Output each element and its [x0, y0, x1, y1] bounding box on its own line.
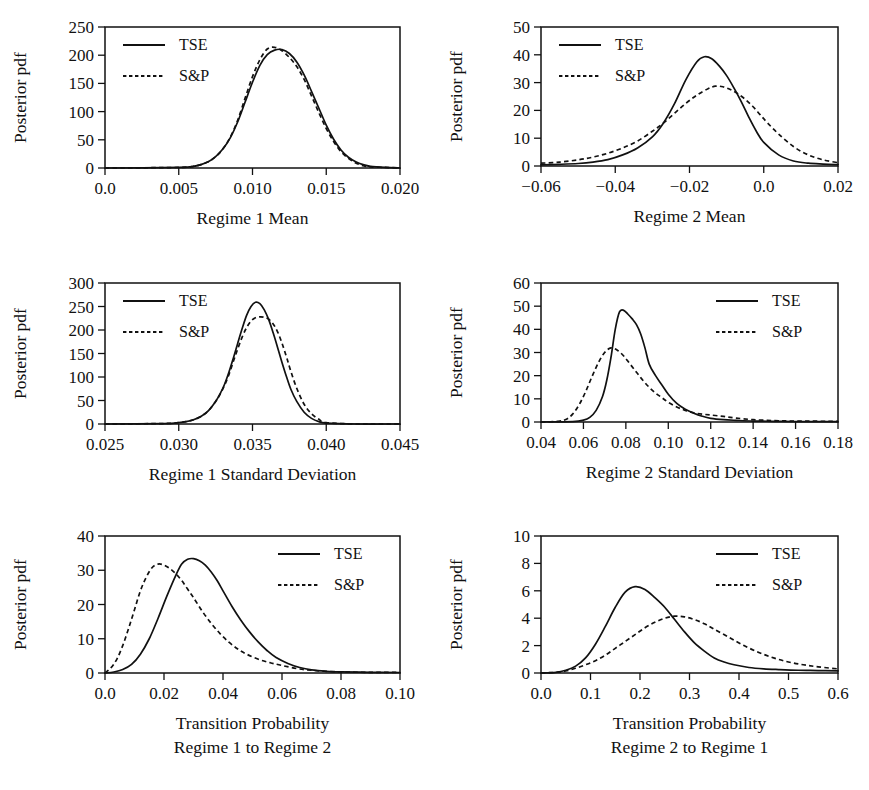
y-tick-label: 20: [77, 596, 94, 615]
x-tick-label: 0.06: [569, 433, 599, 452]
legend-label-sp: S&P: [772, 576, 802, 593]
legend-label-tse: TSE: [772, 545, 800, 562]
x-tick-label: 0.02: [823, 177, 853, 196]
x-tick-label: 0.10: [653, 433, 683, 452]
legend-label-tse: TSE: [179, 36, 207, 53]
y-tick-label: 30: [77, 561, 94, 580]
y-tick-label: 0: [86, 159, 95, 178]
series-curve-s-p: [105, 47, 400, 168]
series-curve-s-p: [105, 317, 400, 424]
legend-label-tse: TSE: [334, 545, 362, 562]
x-tick-label: 0.0: [94, 179, 115, 198]
x-tick-label: 0.010: [233, 179, 271, 198]
y-tick-label: 0: [522, 157, 531, 176]
x-tick-label: 0.08: [326, 684, 356, 703]
y-tick-label: 2: [522, 637, 531, 656]
plot-frame: [541, 27, 838, 166]
legend: TSES&P: [278, 545, 364, 593]
legend: TSES&P: [123, 292, 209, 340]
x-tick-label: −0.02: [670, 177, 709, 196]
x-tick-label: 0.3: [679, 684, 700, 703]
x-tick-label: 0.0: [530, 684, 551, 703]
y-tick-label: 0: [522, 413, 531, 432]
y-tick-label: 50: [77, 392, 94, 411]
legend: TSES&P: [716, 292, 802, 340]
x-axis-label: Regime 1 Standard Deviation: [149, 464, 357, 484]
x-tick-label: 0.035: [233, 435, 271, 454]
x-axis-label: Transition Probability: [176, 713, 330, 733]
x-tick-label: 0.04: [208, 684, 238, 703]
x-tick-label: 0.1: [580, 684, 601, 703]
chart-panel-transition-1to2: 0.00.020.040.060.080.10010203040Posterio…: [0, 510, 433, 790]
x-tick-label: 0.5: [778, 684, 799, 703]
x-tick-label: 0.12: [696, 433, 726, 452]
y-tick-label: 100: [69, 103, 95, 122]
y-tick-label: 40: [513, 46, 530, 65]
y-tick-label: 10: [513, 390, 530, 409]
x-axis-label: Regime 1 Mean: [197, 208, 309, 228]
chart-panel-regime1-sd: 0.0250.0300.0350.0400.045050100150200250…: [0, 257, 433, 507]
y-tick-label: 10: [513, 129, 530, 148]
y-tick-label: 0: [86, 664, 95, 683]
y-tick-label: 60: [513, 274, 530, 293]
x-tick-label: 0.10: [385, 684, 415, 703]
x-tick-label: 0.2: [629, 684, 650, 703]
y-tick-label: 20: [513, 367, 530, 386]
x-tick-label: 0.4: [728, 684, 750, 703]
x-tick-label: 0.020: [381, 179, 419, 198]
series-curve-s-p: [541, 616, 838, 673]
y-axis-label: Posterior pdf: [446, 307, 466, 398]
x-tick-label: 0.005: [160, 179, 198, 198]
y-tick-label: 0: [86, 415, 95, 434]
y-tick-label: 200: [69, 321, 95, 340]
y-axis-label: Posterior pdf: [10, 52, 30, 143]
x-tick-label: 0.040: [307, 435, 345, 454]
chart-panel-regime2-mean: −0.06−0.04−0.020.00.0201020304050Posteri…: [436, 0, 869, 250]
x-tick-label: 0.0: [94, 684, 115, 703]
x-tick-label: 0.045: [381, 435, 419, 454]
series-curve-tse: [541, 587, 838, 673]
x-axis-label: Regime 2 Mean: [634, 206, 746, 226]
chart-panel-transition-2to1: 0.00.10.20.30.40.50.60246810Posterior pd…: [436, 510, 869, 790]
y-tick-label: 250: [69, 298, 95, 317]
y-tick-label: 50: [77, 131, 94, 150]
y-tick-label: 30: [513, 344, 530, 363]
y-tick-label: 40: [77, 527, 94, 546]
x-tick-label: 0.08: [611, 433, 641, 452]
x-tick-label: 0.025: [86, 435, 124, 454]
y-tick-label: 150: [69, 74, 95, 93]
y-tick-label: 0: [522, 664, 531, 683]
series-curve-tse: [541, 57, 838, 165]
x-tick-label: 0.015: [307, 179, 345, 198]
y-axis-label: Posterior pdf: [10, 308, 30, 399]
y-tick-label: 100: [69, 368, 95, 387]
y-tick-label: 10: [513, 527, 530, 546]
x-tick-label: 0.18: [823, 433, 853, 452]
y-tick-label: 10: [77, 630, 94, 649]
x-tick-label: −0.04: [596, 177, 636, 196]
y-tick-label: 8: [522, 554, 531, 573]
x-tick-label: 0.06: [267, 684, 297, 703]
legend-label-tse: TSE: [179, 292, 207, 309]
y-tick-label: 40: [513, 320, 530, 339]
legend-label-sp: S&P: [334, 576, 364, 593]
x-tick-label: 0.0: [753, 177, 774, 196]
x-tick-label: 0.6: [827, 684, 848, 703]
chart-panel-regime1-mean: 0.00.0050.0100.0150.020050100150200250Po…: [0, 0, 433, 250]
y-tick-label: 250: [69, 18, 95, 37]
legend: TSES&P: [123, 36, 209, 84]
plot-frame: [105, 27, 400, 168]
chart-panel-regime2-sd: 0.040.060.080.100.120.140.160.1801020304…: [436, 257, 869, 507]
x-tick-label: 0.16: [781, 433, 811, 452]
y-tick-label: 150: [69, 345, 95, 364]
x-tick-label: 0.04: [526, 433, 556, 452]
x-tick-label: 0.14: [738, 433, 768, 452]
x-tick-label: 0.02: [149, 684, 179, 703]
series-curve-s-p: [541, 86, 838, 163]
y-tick-label: 30: [513, 74, 530, 93]
legend: TSES&P: [559, 36, 645, 84]
y-tick-label: 50: [513, 297, 530, 316]
y-tick-label: 4: [522, 609, 531, 628]
series-curve-tse: [105, 302, 400, 424]
y-axis-label: Posterior pdf: [446, 559, 466, 650]
